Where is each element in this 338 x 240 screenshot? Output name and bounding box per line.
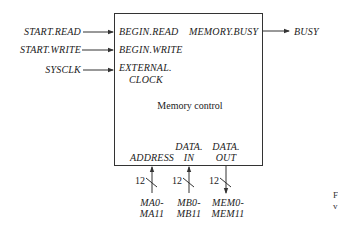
data-out-bus-width: 12 <box>204 175 219 186</box>
data-out-port-label-line1: DATA. <box>206 141 246 152</box>
data-in-signal-label-line2: MB11 <box>169 208 209 219</box>
block-title: Memory control <box>140 100 240 111</box>
begin-read-port-label: BEGIN.READ <box>119 26 179 37</box>
begin-write-port-label: BEGIN.WRITE <box>119 44 183 55</box>
sysclk-signal-label: SYSCLK <box>0 64 81 75</box>
external-clock-port-label-line2: CLOCK <box>129 74 163 85</box>
address-signal-label-line1: MA0- <box>132 197 172 208</box>
external-clock-port-label-line1: EXTERNAL. <box>119 62 172 73</box>
memory-busy-port-label: MEMORY.BUSY <box>189 26 258 37</box>
data-in-port-label-line1: DATA. <box>169 141 209 152</box>
start-read-signal-label: START.READ <box>0 26 81 37</box>
address-signal-label-line2: MA11 <box>132 208 172 219</box>
data-in-signal-label-line1: MB0- <box>169 197 209 208</box>
data-out-signal-label-line2: MEM11 <box>206 208 250 219</box>
data-out-signal-label-line1: MEM0- <box>206 197 250 208</box>
data-out-port-label-line2: OUT <box>206 152 246 163</box>
data-in-port-label-line2: IN <box>169 152 209 163</box>
address-bus-width: 12 <box>130 175 145 186</box>
caption-fragment-1: F <box>333 190 338 200</box>
busy-signal-label: BUSY <box>294 26 319 37</box>
start-write-signal-label: START.WRITE <box>0 44 81 55</box>
data-in-bus-width: 12 <box>167 175 182 186</box>
caption-fragment-2: v <box>333 201 338 211</box>
